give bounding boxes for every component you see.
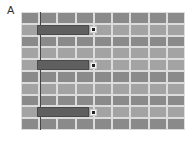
grid-row [21, 95, 185, 107]
grid-cell [22, 48, 38, 58]
grid-cell [22, 37, 38, 47]
grid-cell [113, 84, 129, 94]
grid-cell [77, 119, 93, 129]
grid-cell [168, 84, 184, 94]
grid-cell [150, 119, 166, 129]
grid-cell [113, 48, 129, 58]
grid-cell [168, 13, 184, 23]
grid-cell [40, 72, 56, 82]
grid-cell [150, 107, 166, 117]
grid-cell [40, 84, 56, 94]
grid-cell [113, 25, 129, 35]
grid-cell [58, 119, 74, 129]
bar [37, 60, 89, 70]
grid-cell [131, 25, 147, 35]
bar [37, 107, 89, 117]
grid-row [21, 47, 185, 59]
grid-cell [168, 25, 184, 35]
grid-cell [95, 48, 111, 58]
grid-cell [131, 13, 147, 23]
grid-cell [150, 25, 166, 35]
grid-cell [40, 13, 56, 23]
grid-cell [95, 96, 111, 106]
grid-cell [150, 60, 166, 70]
grid-cell [95, 37, 111, 47]
grid-cell [131, 96, 147, 106]
grid-cell [168, 72, 184, 82]
grid-cell [168, 48, 184, 58]
grid-row [21, 36, 185, 48]
grid-cell [58, 84, 74, 94]
grid-row [21, 12, 185, 24]
grid-cell [58, 72, 74, 82]
grid-cell [22, 96, 38, 106]
grid-cell [22, 60, 38, 70]
grid-row [21, 71, 185, 83]
square-marker-icon [90, 109, 97, 116]
grid-cell [77, 84, 93, 94]
grid-cell [131, 107, 147, 117]
grid-cell [58, 96, 74, 106]
grid-cell [113, 107, 129, 117]
square-marker-icon [90, 62, 97, 69]
grid-cell [22, 107, 38, 117]
grid-cell [58, 37, 74, 47]
grid-cell [22, 119, 38, 129]
grid-cell [150, 96, 166, 106]
grid-cell [40, 48, 56, 58]
grid-cell [131, 37, 147, 47]
grid-cell [150, 13, 166, 23]
grid-cell [40, 96, 56, 106]
grid-cell [168, 107, 184, 117]
grid-cell [58, 48, 74, 58]
grid-cell [40, 119, 56, 129]
grid-cell [77, 72, 93, 82]
grid-cell [113, 13, 129, 23]
grid-cell [113, 72, 129, 82]
grid-cell [168, 37, 184, 47]
grid-cell [95, 72, 111, 82]
grid-cell [113, 96, 129, 106]
grid-cell [150, 72, 166, 82]
grid-row [21, 118, 185, 130]
grid-cell [40, 37, 56, 47]
grid-cell [168, 96, 184, 106]
grid-cell [131, 72, 147, 82]
grid-cell [131, 60, 147, 70]
grid-cell [95, 13, 111, 23]
grid-cell [150, 48, 166, 58]
grid-cell [77, 37, 93, 47]
grid-cell [22, 13, 38, 23]
grid-cell [131, 119, 147, 129]
grid-cell [58, 13, 74, 23]
grid-cell [22, 25, 38, 35]
grid-cell [150, 84, 166, 94]
grid-cell [95, 119, 111, 129]
grid-cell [168, 60, 184, 70]
grid-cell [77, 96, 93, 106]
grid-row [21, 83, 185, 95]
grid-cell [113, 119, 129, 129]
bar [37, 25, 89, 35]
grid-cell [131, 48, 147, 58]
grid-cell [77, 48, 93, 58]
panel-label: A [7, 4, 14, 16]
grid-cell [77, 13, 93, 23]
grid-cell [168, 119, 184, 129]
grid-cell [22, 72, 38, 82]
grid-diagram [21, 12, 185, 130]
grid-cell [131, 84, 147, 94]
grid-cell [95, 84, 111, 94]
grid-cell [113, 60, 129, 70]
grid-cell [113, 37, 129, 47]
grid-cell [22, 84, 38, 94]
square-marker-icon [90, 26, 97, 33]
grid-cell [150, 37, 166, 47]
